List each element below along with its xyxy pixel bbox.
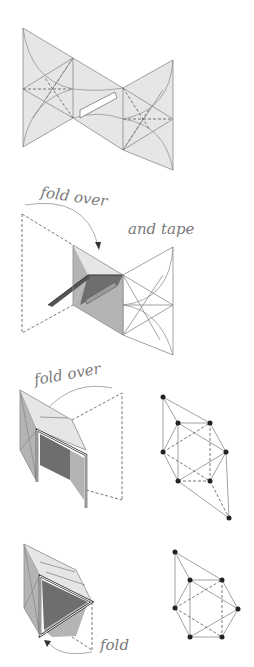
- vertex: [161, 395, 166, 400]
- vertex: [188, 635, 193, 640]
- graph-1: [161, 395, 232, 521]
- step-3-label-fold-over: fold over: [32, 359, 103, 389]
- step-2-fold-and-tape: fold over and tape: [22, 183, 195, 355]
- vertex: [220, 578, 225, 583]
- step-2-label-and-tape: and tape: [128, 220, 195, 238]
- graph-2: [173, 550, 241, 640]
- vertex: [176, 479, 181, 484]
- step-4-fold: fold: [24, 544, 129, 654]
- vertex: [227, 516, 232, 521]
- vertex: [208, 479, 213, 484]
- step-2-label-fold-over: fold over: [38, 183, 109, 210]
- vertex: [220, 635, 225, 640]
- step-1-crease-pattern: [23, 28, 173, 170]
- vertex: [224, 450, 229, 455]
- origami-diagram: fold over and tape fold over: [0, 0, 254, 667]
- vertex: [236, 607, 241, 612]
- step-3-fold-over: fold over: [20, 359, 122, 508]
- vertex: [208, 421, 213, 426]
- vertex: [188, 578, 193, 583]
- vertex: [173, 550, 178, 555]
- vertex: [173, 606, 178, 611]
- step-4-label-fold: fold: [99, 636, 129, 654]
- vertex: [161, 450, 166, 455]
- vertex: [176, 421, 181, 426]
